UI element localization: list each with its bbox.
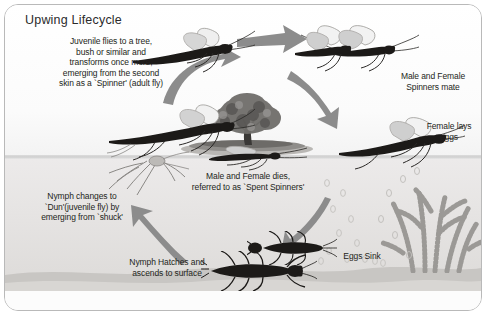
label-spent-spinners: Male and Female dies, referred to as `Sp… <box>153 171 343 192</box>
nymph-on-riverbed <box>247 231 337 265</box>
label-female-lays-eggs: Female lays eggs <box>409 121 482 142</box>
label-nymph-changes-to-dun: Nymph changes to `Dun'(juvenile fly) by … <box>15 191 149 223</box>
page-title: Upwing Lifecycle <box>25 13 122 27</box>
bottom-margin <box>5 291 481 311</box>
spent-spinner-on-surface <box>199 145 309 171</box>
diagram-frame: Upwing Lifecycle Juvenile flies to a tre… <box>4 4 482 311</box>
label-juvenile-flies: Juvenile flies to a tree, bush or simila… <box>23 36 199 89</box>
label-eggs-sink: Eggs Sink <box>331 251 393 262</box>
label-nymph-hatches: Nymph Hatches and ascends to surface <box>105 257 229 278</box>
lifecycle-diagram: Upwing Lifecycle Juvenile flies to a tre… <box>0 0 488 317</box>
label-spinners-mate: Male and Female Spinners mate <box>379 71 482 92</box>
